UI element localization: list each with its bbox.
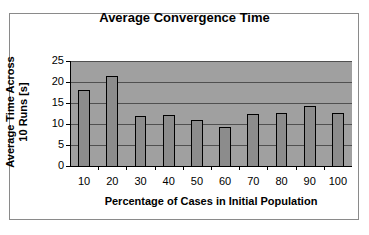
x-tick-label: 90 — [296, 175, 324, 187]
bar-70 — [247, 114, 259, 166]
y-tick-mark — [66, 103, 70, 104]
bar-90 — [304, 106, 316, 166]
x-tick-mark — [267, 166, 268, 170]
y-tick-mark — [66, 166, 70, 167]
x-tick-label: 100 — [324, 175, 352, 187]
bar-80 — [276, 113, 288, 166]
y-tick-mark — [66, 145, 70, 146]
bar-60 — [219, 127, 231, 166]
y-tick-label: 20 — [44, 75, 64, 87]
x-tick-mark — [183, 166, 184, 170]
x-axis-label: Percentage of Cases in Initial Populatio… — [70, 195, 352, 207]
y-tick-label: 15 — [44, 96, 64, 108]
y-tick-label: 5 — [44, 138, 64, 150]
x-tick-mark — [324, 166, 325, 170]
bar-30 — [135, 116, 147, 166]
plot-area — [70, 61, 352, 166]
bar-50 — [191, 120, 203, 166]
bar-10 — [78, 90, 90, 166]
x-tick-label: 60 — [211, 175, 239, 187]
x-tick-label: 70 — [239, 175, 267, 187]
x-tick-mark — [211, 166, 212, 170]
y-tick-label: 25 — [44, 54, 64, 66]
chart-title: Average Convergence Time — [0, 10, 369, 25]
x-tick-mark — [239, 166, 240, 170]
x-tick-mark — [155, 166, 156, 170]
x-tick-label: 10 — [70, 175, 98, 187]
x-tick-label: 30 — [127, 175, 155, 187]
y-axis-label: Average Time Across 10 Runs [s] — [4, 52, 30, 172]
bar-20 — [106, 76, 118, 166]
x-tick-label: 80 — [268, 175, 296, 187]
gridline — [70, 61, 352, 62]
bar-40 — [163, 115, 175, 166]
y-tick-mark — [66, 82, 70, 83]
x-tick-label: 20 — [98, 175, 126, 187]
x-tick-mark — [296, 166, 297, 170]
bar-100 — [332, 113, 344, 166]
x-tick-mark — [98, 166, 99, 170]
y-axis-line — [70, 61, 71, 167]
x-tick-label: 50 — [183, 175, 211, 187]
y-tick-mark — [66, 61, 70, 62]
x-tick-label: 40 — [155, 175, 183, 187]
y-tick-label: 0 — [44, 159, 64, 171]
y-tick-label: 10 — [44, 117, 64, 129]
y-tick-mark — [66, 124, 70, 125]
x-tick-mark — [126, 166, 127, 170]
